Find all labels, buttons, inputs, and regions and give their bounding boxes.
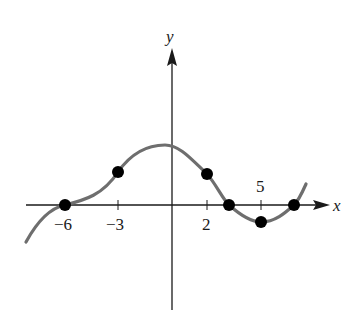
tick-label-5: 5 xyxy=(256,177,265,196)
tick-label-neg3: −3 xyxy=(106,215,124,234)
point-neg6-0 xyxy=(59,199,71,211)
point-5-min xyxy=(255,216,267,228)
point-neg3 xyxy=(112,166,124,178)
point-root-7 xyxy=(288,199,300,211)
point-root-3 xyxy=(223,199,235,211)
tick-label-2: 2 xyxy=(202,215,211,234)
y-axis-label: y xyxy=(164,27,174,46)
x-axis-label: x xyxy=(332,196,341,215)
point-2 xyxy=(201,168,213,180)
tick-label-neg6: −6 xyxy=(54,215,72,234)
function-graph: x y −6 −3 2 5 xyxy=(0,0,361,328)
